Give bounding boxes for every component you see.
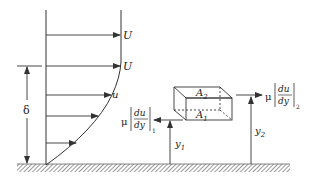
boundary-layer-diagram: U U u δ A2 A1 y1 μ du dy 1 y2 μ du dy [0,0,311,180]
svg-text:dy: dy [134,120,146,130]
label-U-top: U [123,29,133,42]
shear-stress-label-2: μ du dy 2 [265,83,300,110]
svg-text:1: 1 [152,127,156,134]
label-A1: A1 [195,109,208,123]
ground-wall [17,164,290,172]
svg-text:2: 2 [296,103,300,110]
svg-text:du: du [134,108,146,118]
svg-text:du: du [278,84,290,94]
label-A2: A2 [195,87,208,101]
svg-text:dy: dy [278,96,290,106]
svg-text:μ: μ [265,91,272,102]
label-U-edge: U [123,60,133,73]
label-delta: δ [23,104,30,117]
velocity-profile-curve [46,10,121,165]
svg-text:μ: μ [121,116,128,127]
label-y2: y2 [254,125,266,139]
shear-stress-label-1: μ du dy 1 [121,107,156,134]
label-u-local: u [112,89,118,100]
label-y1: y1 [174,138,185,152]
